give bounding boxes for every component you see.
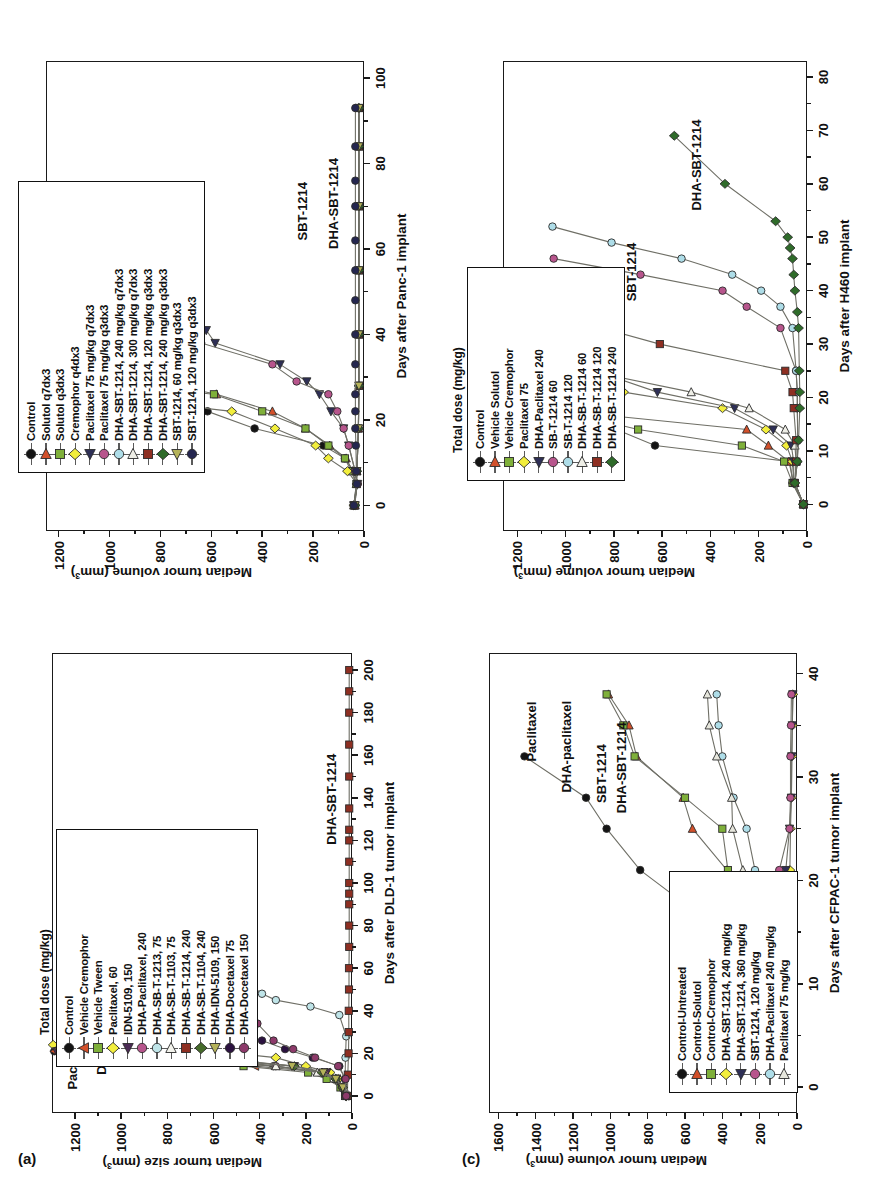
legend-item[interactable]: Control-Solutol <box>690 878 705 1087</box>
legend-item[interactable]: Cremophor q4dx3 <box>68 188 83 467</box>
x-axis-title: Days after H460 implant <box>837 219 852 372</box>
y-tick <box>647 1113 649 1119</box>
legend-item[interactable]: DHA-SB-T-1104, 240 <box>193 836 208 1061</box>
x-tick-label: 140 <box>361 787 376 809</box>
y-tick <box>703 1113 705 1117</box>
legend-item[interactable]: DHA-SBT-1214, 300 mg/kg q7dx3 <box>126 188 141 467</box>
legend-item[interactable]: DHA-SB-T-1213, 75 <box>150 836 165 1061</box>
legend-item[interactable]: DHA-Paclitaxel, 240 <box>135 836 150 1061</box>
y-tick-label: 400 <box>252 1123 267 1145</box>
legend-item[interactable]: Control-Untreated <box>675 878 690 1087</box>
legend-item[interactable]: DHA-SBT-1214, 240 mg/kg q3dx3 <box>155 188 170 467</box>
data-layer <box>455 600 873 1185</box>
legend-box: Control-UntreatedControl-SolutolControl-… <box>669 871 798 1093</box>
legend-item-label: DHA-SB-T-1214 60 <box>576 353 588 449</box>
x-tick <box>352 1010 358 1012</box>
legend-item[interactable]: DHA-SB-T-1214 240 <box>604 274 619 475</box>
x-tick-label: 80 <box>361 918 376 932</box>
x-tick <box>352 925 358 927</box>
legend-marker-icon <box>734 1061 748 1087</box>
legend-item[interactable]: DHA-IDN-5109, 150 <box>208 836 223 1061</box>
legend-item[interactable]: Solutol q7dx3 <box>39 188 54 467</box>
y-tick <box>498 1113 500 1119</box>
x-tick <box>797 1086 803 1088</box>
legend-box: ControlVehicle CremophorVehicle TweenPac… <box>56 829 258 1067</box>
x-tick <box>352 691 356 693</box>
legend-item[interactable]: DHA-SB-T-1103, 75 <box>164 836 179 1061</box>
legend-item[interactable]: SBT-1214, 120 mg/kg q3dx3 <box>185 188 200 467</box>
legend-item[interactable]: Solutol q3dx3 <box>53 188 68 467</box>
legend-item[interactable]: Vehicle Cremophor <box>502 274 517 475</box>
legend-item[interactable]: DHA-SBT-1214, 360 mg/kg <box>733 878 748 1087</box>
x-tick-label: 80 <box>816 70 831 84</box>
y-tick <box>759 1113 761 1119</box>
legend-item[interactable]: Control <box>62 836 77 1061</box>
legend-item[interactable]: SB-T-1214 120 <box>561 274 576 475</box>
y-tick <box>213 1113 215 1119</box>
x-tick <box>807 237 813 239</box>
y-tick <box>134 531 136 535</box>
legend-item[interactable]: SBT-1214, 120 mg/kg <box>748 878 763 1087</box>
legend-item[interactable]: DHA-Paclitaxel 240 <box>531 274 546 475</box>
panel-b-canvas: 020406080100020040060080010001200Days af… <box>12 8 430 593</box>
y-tick <box>613 531 615 537</box>
legend-item[interactable]: Vehicle Cremophor <box>77 836 92 1061</box>
legend-item-label: Paclitaxel 75 mg/kg q3dx3 <box>98 305 110 441</box>
legend-item[interactable]: Vehicle Tween <box>91 836 106 1061</box>
panel-a: 0204060801001201401601802000200400600800… <box>12 600 430 1185</box>
panel-c-canvas: 01020304002004006008001000120014001600Da… <box>455 600 873 1185</box>
y-tick <box>610 1113 612 1119</box>
x-tick-label: 40 <box>806 666 821 680</box>
legend-item[interactable]: Paclitaxel 75 mg/kg q7dx3 <box>82 188 97 467</box>
x-tick <box>352 797 358 799</box>
x-tick <box>352 1031 356 1033</box>
y-tick <box>236 1113 238 1117</box>
legend-item[interactable]: SBT-1214, 60 mg/kg q3dx3 <box>170 188 185 467</box>
y-tick-label: 400 <box>715 1123 730 1145</box>
legend-marker-icon <box>575 449 589 475</box>
legend-marker-icon <box>91 1035 105 1061</box>
legend-item[interactable]: DHA-SBT-1214, 240 mg/kg <box>719 878 734 1087</box>
x-tick <box>807 423 811 425</box>
legend-item[interactable]: DHA-SBT-1214, 240 mg/kg q7dx3 <box>112 188 127 467</box>
legend-item[interactable]: DHA-SB-T-1214, 240 <box>179 836 194 1061</box>
y-tick <box>185 531 187 535</box>
legend-item[interactable]: Vehicle Solutol <box>488 274 503 475</box>
y-tick <box>97 1113 99 1117</box>
x-tick <box>364 248 370 250</box>
x-axis-title: Days after Panc-1 implant <box>394 213 409 378</box>
y-tick-label: 800 <box>606 541 621 563</box>
legend-item[interactable]: Paclitaxel 75 mg/kg <box>777 878 792 1087</box>
legend-item-label: Solutol q7dx3 <box>40 369 52 441</box>
legend-item[interactable]: Control <box>24 188 39 467</box>
legend-item[interactable]: DHA-Paclitaxel 240 mg/kg <box>763 878 778 1087</box>
legend-item[interactable]: DHA-Docetaxel 75 <box>223 836 238 1061</box>
legend-item[interactable]: DHA-SB-T-1214 120 <box>590 274 605 475</box>
legend-item[interactable]: DHA-Docetaxel 150 <box>237 836 252 1061</box>
legend-item-label: Paclitaxel 75 mg/kg <box>778 960 790 1061</box>
legend-item[interactable]: IDN-5109, 150 <box>120 836 135 1061</box>
x-tick-label: 20 <box>373 413 388 427</box>
legend-item-label: DHA-SB-T-1213, 75 <box>151 936 163 1035</box>
x-tick-label: 160 <box>361 744 376 766</box>
legend-marker-icon <box>156 441 170 467</box>
legend-item[interactable]: Control <box>473 274 488 475</box>
legend-marker-icon <box>546 449 560 475</box>
panel-a-canvas: 0204060801001201401601802000200400600800… <box>12 600 430 1185</box>
x-tick <box>807 210 811 212</box>
legend-item[interactable]: Paclitaxel, 60 <box>106 836 121 1061</box>
y-axis-title-text: Median tumor volume (mm <box>523 565 695 580</box>
y-axis-title-close: ) <box>71 565 76 580</box>
y-tick <box>666 1113 668 1117</box>
legend-item[interactable]: SB-T-1214 60 <box>546 274 561 475</box>
legend-item[interactable]: DHA-SBT-1214, 120 mg/kg q3dx3 <box>141 188 156 467</box>
legend-item[interactable]: DHA-SB-T-1214 60 <box>575 274 590 475</box>
legend-item[interactable]: Paclitaxel 75 <box>517 274 532 475</box>
legend-item[interactable]: Control-Cremophor <box>704 878 719 1087</box>
y-tick <box>722 1113 724 1119</box>
x-tick-label: 100 <box>361 872 376 894</box>
legend-marker-icon <box>62 1035 76 1061</box>
legend-item[interactable]: Paclitaxel 75 mg/kg q3dx3 <box>97 188 112 467</box>
x-tick <box>364 462 368 464</box>
legend-marker-icon <box>488 449 502 475</box>
